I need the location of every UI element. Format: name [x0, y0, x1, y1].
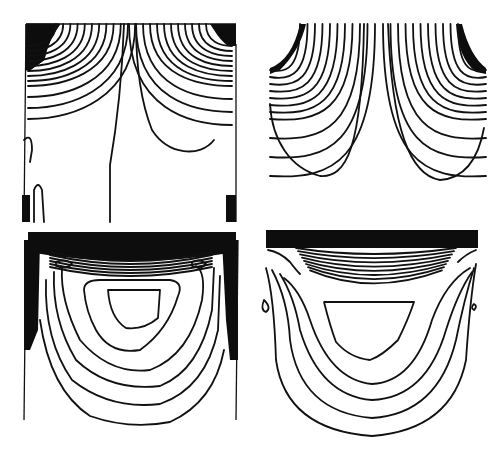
contour-droplet [262, 300, 268, 312]
panel-top-left [22, 24, 236, 222]
contour-line [296, 248, 456, 254]
dense-region-tr [210, 24, 236, 46]
contour-line [62, 266, 203, 371]
contour-figure [0, 0, 501, 452]
contour-inner-cell [324, 302, 414, 360]
contour-line [272, 268, 474, 418]
contour-line [284, 268, 470, 384]
dense-top-band [266, 230, 478, 248]
dense-region-br [226, 195, 236, 222]
contour-line [110, 24, 124, 222]
contour-line [398, 24, 486, 139]
panel-bottom-left [24, 232, 238, 425]
contour-line [310, 270, 442, 283]
contour-line [266, 264, 476, 436]
contour-droplet [472, 304, 476, 310]
contour-line [458, 250, 476, 262]
contour-inner-cell [108, 290, 160, 328]
contour-line [280, 272, 472, 400]
panel-bottom-right [262, 230, 478, 436]
left-wall [24, 24, 26, 222]
contour-line [34, 185, 44, 222]
dense-region-bl [22, 195, 30, 222]
dense-right-wall [222, 240, 238, 360]
panel-top-right [270, 24, 486, 180]
